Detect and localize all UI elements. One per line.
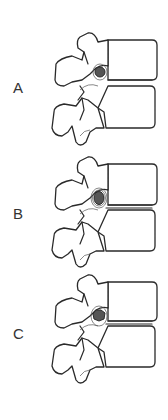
lesion-b bbox=[94, 192, 104, 205]
panel-b: B bbox=[0, 150, 168, 280]
vertebrae-illustration-a bbox=[0, 20, 168, 150]
panel-a: A bbox=[0, 20, 168, 150]
lesion-a bbox=[95, 67, 105, 77]
vertebrae-illustration-c bbox=[0, 270, 168, 400]
panel-c: C bbox=[0, 270, 168, 400]
vertebrae-illustration-b bbox=[0, 150, 168, 280]
lesion-c bbox=[93, 310, 105, 321]
